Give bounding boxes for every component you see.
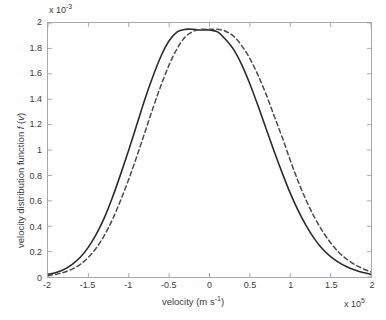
y-tick-label: 0.2: [8, 248, 42, 257]
x-tick-label: -0.5: [161, 281, 177, 290]
y-tick-label: 2: [8, 18, 42, 27]
x-tick-label: 1: [288, 281, 293, 290]
figure-canvas: x 10-3 x 105 00.20.40.60.811.21.41.61.82…: [0, 0, 386, 320]
axis-ticks: [48, 23, 371, 277]
y-tick-label: 0: [8, 274, 42, 283]
y-exponent-base: x 10: [49, 5, 66, 15]
x-axis-title-text: velocity (m s: [162, 296, 215, 307]
x-tick-label: 0: [207, 281, 212, 290]
y-exponent-power: -3: [66, 3, 72, 10]
series-dashed-distribution: [48, 29, 371, 275]
data-series-group: [48, 29, 371, 275]
curve-svg: [48, 23, 371, 277]
y-tick-label: 1.6: [8, 69, 42, 78]
y-tick-label: 1.4: [8, 94, 42, 103]
y-axis-title-close: ): [15, 113, 26, 116]
y-tick-label: 1.8: [8, 43, 42, 52]
y-axis-title-text: velocity distribution function: [15, 129, 26, 248]
y-axis-title: velocity distribution function f (v): [16, 113, 26, 248]
x-tick-label: 2: [369, 281, 374, 290]
plot-area: [47, 22, 372, 278]
y-axis-exponent-label: x 10-3: [49, 6, 72, 15]
y-axis-title-v: v: [15, 116, 26, 121]
series-solid-distribution: [48, 29, 371, 274]
x-tick-label: -2: [43, 281, 51, 290]
x-tick-label: 1.5: [325, 281, 338, 290]
x-axis-title: velocity (m s-1): [0, 297, 386, 307]
x-tick-label: -1.5: [80, 281, 96, 290]
x-tick-label: -1: [124, 281, 132, 290]
y-axis-title-open: (: [15, 121, 26, 127]
x-tick-label: 0.5: [244, 281, 257, 290]
x-axis-title-tail: ): [221, 296, 224, 307]
